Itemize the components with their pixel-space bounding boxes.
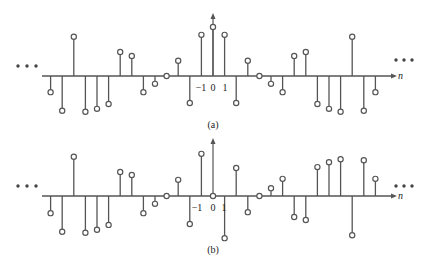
stem-marker-icon xyxy=(60,229,65,234)
stem-marker-icon xyxy=(373,90,378,95)
stem-marker-icon xyxy=(303,49,308,54)
stem-marker-icon xyxy=(350,233,355,238)
stem-marker-icon xyxy=(176,58,181,63)
stem-marker-icon xyxy=(187,100,192,105)
panel-caption: (a) xyxy=(207,119,218,131)
stem-marker-icon xyxy=(152,201,157,206)
stem-marker-icon xyxy=(141,90,146,95)
stem-marker-icon xyxy=(118,169,123,174)
tick-label: −1 xyxy=(192,202,203,213)
stem-marker-icon xyxy=(199,32,204,37)
tick-label: 0 xyxy=(211,202,216,213)
stem-marker-icon xyxy=(303,217,308,222)
stem-marker-icon xyxy=(268,81,273,86)
ellipsis-dot-icon xyxy=(25,64,28,67)
axis-arrow-icon xyxy=(391,74,397,79)
stem-marker-icon xyxy=(129,172,134,177)
stem-marker-icon xyxy=(152,81,157,86)
stem-marker-icon xyxy=(71,154,76,159)
panel-a-even-signal: −101n(a) xyxy=(16,13,413,131)
vertical-axis-arrow-icon xyxy=(211,138,216,144)
stem-marker-icon xyxy=(199,151,204,156)
stem-marker-icon xyxy=(315,101,320,106)
ellipsis-dot-icon xyxy=(402,184,405,187)
ellipsis-dot-icon xyxy=(25,184,28,187)
ellipsis-dot-icon xyxy=(394,58,397,61)
stem-marker-icon xyxy=(83,230,88,235)
ellipsis-dot-icon xyxy=(16,184,19,187)
stem-marker-icon xyxy=(245,58,250,63)
stem-marker-icon xyxy=(350,34,355,39)
axis-label-n: n xyxy=(398,190,403,201)
tick-label: 1 xyxy=(223,82,228,93)
ellipsis-dot-icon xyxy=(34,184,37,187)
stem-marker-icon xyxy=(315,164,320,169)
tick-label: −1 xyxy=(196,82,207,93)
stem-marker-icon xyxy=(234,165,239,170)
stem-marker-icon xyxy=(280,90,285,95)
stem-marker-icon xyxy=(280,176,285,181)
stem-marker-icon xyxy=(94,227,99,232)
stem-marker-icon xyxy=(129,53,134,58)
stem-marker-icon xyxy=(326,160,331,165)
stem-marker-icon xyxy=(71,34,76,39)
stem-marker-icon xyxy=(106,222,111,227)
stem-marker-icon xyxy=(292,53,297,58)
stem-marker-icon xyxy=(83,109,88,114)
axis-label-n: n xyxy=(398,70,403,81)
stem-marker-icon xyxy=(268,186,273,191)
ellipsis-dot-icon xyxy=(34,64,37,67)
ellipsis-dot-icon xyxy=(394,184,397,187)
stem-marker-icon xyxy=(257,73,262,78)
ellipsis-dot-icon xyxy=(402,58,405,61)
stem-marker-icon xyxy=(60,108,65,113)
stem-marker-icon xyxy=(164,193,169,198)
ellipsis-dot-icon xyxy=(16,64,19,67)
stem-marker-icon xyxy=(245,210,250,215)
stem-marker-icon xyxy=(210,24,215,29)
stem-marker-icon xyxy=(94,106,99,111)
stem-marker-icon xyxy=(141,211,146,216)
tick-label: 0 xyxy=(211,82,216,93)
stem-marker-icon xyxy=(118,49,123,54)
stem-marker-icon xyxy=(373,176,378,181)
stem-marker-icon xyxy=(222,236,227,241)
vertical-axis-arrow-icon xyxy=(211,13,216,19)
stem-marker-icon xyxy=(106,101,111,106)
panel-caption: (b) xyxy=(207,244,219,256)
stem-marker-icon xyxy=(338,109,343,114)
axis-arrow-icon xyxy=(391,194,397,199)
stem-marker-icon xyxy=(326,106,331,111)
stem-marker-icon xyxy=(361,158,366,163)
stem-plot-figure: −101n(a) −101n(b) xyxy=(0,0,423,269)
stem-marker-icon xyxy=(234,100,239,105)
stem-marker-icon xyxy=(210,193,215,198)
panel-b-odd-signal: −101n(b) xyxy=(16,138,413,256)
stem-marker-icon xyxy=(338,157,343,162)
stem-marker-icon xyxy=(257,193,262,198)
stem-marker-icon xyxy=(48,211,53,216)
stem-marker-icon xyxy=(361,108,366,113)
stem-marker-icon xyxy=(187,221,192,226)
ellipsis-dot-icon xyxy=(410,184,413,187)
stem-marker-icon xyxy=(292,214,297,219)
stem-marker-icon xyxy=(176,177,181,182)
stem-marker-icon xyxy=(48,90,53,95)
tick-label: 1 xyxy=(222,202,227,213)
ellipsis-dot-icon xyxy=(410,58,413,61)
stem-marker-icon xyxy=(222,32,227,37)
stem-marker-icon xyxy=(164,73,169,78)
